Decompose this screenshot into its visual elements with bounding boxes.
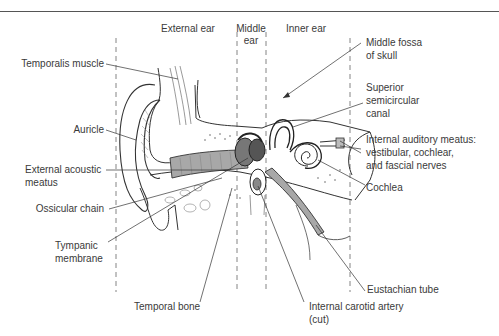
region-external-ear: External ear bbox=[148, 23, 228, 35]
temporalis-muscle bbox=[170, 66, 191, 125]
label-middle-fossa-line1: Middle fossa bbox=[366, 37, 422, 49]
fossa-arrowhead bbox=[283, 92, 290, 98]
label-internal-carotid-line1: Internal carotid artery bbox=[309, 301, 404, 313]
label-internal-auditory-meatus-line1: Internal auditory meatus: bbox=[366, 134, 476, 146]
carotid-artery bbox=[250, 169, 266, 215]
label-superior-canal-line1: Superior bbox=[366, 82, 404, 94]
label-auricle: Auricle bbox=[0, 124, 104, 136]
label-temporal-bone: Temporal bone bbox=[134, 301, 200, 313]
label-internal-auditory-meatus-line3: and fascial nerves bbox=[366, 160, 447, 172]
label-internal-carotid-line2: (cut) bbox=[309, 314, 329, 326]
auricle-shape bbox=[120, 84, 160, 211]
label-tympanic-membrane-line1: Tympanic bbox=[55, 240, 98, 252]
label-cochlea: Cochlea bbox=[366, 182, 403, 194]
label-external-acoustic-meatus-line2: meatus bbox=[25, 177, 58, 189]
cochlea-spiral bbox=[295, 144, 318, 166]
label-external-acoustic-meatus-line1: External acoustic bbox=[25, 164, 101, 176]
label-middle-fossa-line2: of skull bbox=[366, 50, 397, 62]
label-internal-auditory-meatus-line2: vestibular, cochlear, bbox=[366, 147, 454, 159]
label-temporalis-muscle: Temporalis muscle bbox=[0, 58, 104, 70]
region-middle-ear-line1: Middle bbox=[231, 23, 271, 35]
mastoid-cells bbox=[165, 185, 210, 212]
label-tympanic-membrane-line2: membrane bbox=[55, 253, 103, 265]
region-inner-ear: Inner ear bbox=[286, 23, 326, 35]
region-middle-ear-line2: ear bbox=[231, 35, 271, 47]
eustachian-tube bbox=[265, 168, 324, 235]
label-ossicular-chain: Ossicular chain bbox=[0, 203, 104, 215]
leader-lines bbox=[106, 43, 365, 302]
ossicular-chain bbox=[235, 133, 265, 166]
label-superior-canal-line3: canal bbox=[366, 108, 390, 120]
semicircular-canals bbox=[270, 120, 322, 169]
label-eustachian-tube: Eustachian tube bbox=[367, 284, 439, 296]
label-superior-canal-line2: semicircular bbox=[366, 95, 419, 107]
